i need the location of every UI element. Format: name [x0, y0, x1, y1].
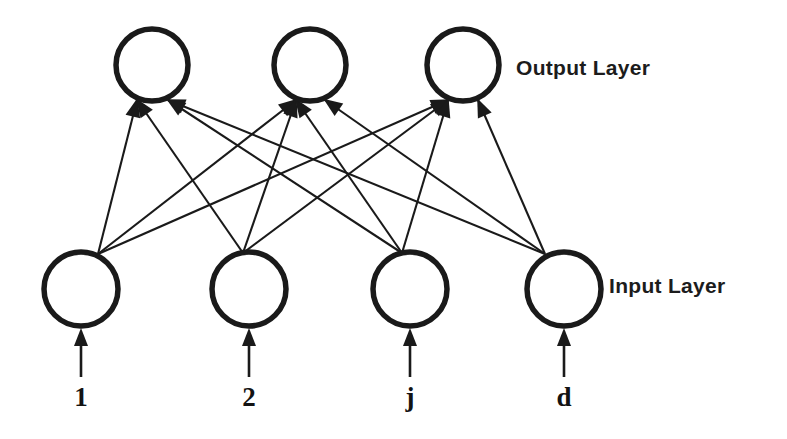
output-node-2 [274, 29, 346, 101]
input-node-2 [212, 252, 286, 326]
input-stem-arrowhead-2 [242, 328, 256, 346]
input-node-1 [44, 252, 118, 326]
input-layer-nodes [44, 252, 601, 326]
connection-in-3-to-out-2 [296, 100, 402, 253]
connection-in-1-to-out-1 [98, 100, 137, 254]
connection-edges-group [98, 100, 545, 254]
input-index-label-3: j [405, 382, 415, 412]
connection-in-3-to-out-1 [168, 100, 402, 253]
connection-in-3-to-out-3 [402, 100, 448, 253]
input-stem-arrowhead-4 [557, 328, 571, 346]
input-stem-arrowhead-3 [403, 328, 417, 346]
neural-network-diagram: 12jd Output Layer Input Layer [0, 0, 787, 439]
arrowhead-in-4-to-out-3 [477, 98, 491, 118]
output-node-1 [116, 29, 188, 101]
input-node-3 [373, 252, 447, 326]
input-index-label-2: 2 [242, 382, 256, 412]
input-stem-arrows [74, 328, 571, 377]
input-layer-label: Input Layer [609, 274, 725, 297]
input-index-labels: 12jd [74, 382, 571, 412]
input-stem-arrowhead-1 [74, 328, 88, 346]
connection-in-1-to-out-2 [98, 100, 296, 254]
output-layer-label: Output Layer [516, 56, 650, 79]
input-index-label-4: d [556, 382, 571, 412]
input-node-4 [527, 252, 601, 326]
input-index-label-1: 1 [74, 382, 88, 412]
output-layer-nodes [116, 29, 499, 101]
connection-in-2-to-out-2 [243, 100, 296, 253]
arrowhead-in-4-to-out-2 [323, 99, 343, 116]
output-node-3 [427, 29, 499, 101]
network-canvas: 12jd Output Layer Input Layer [0, 0, 787, 439]
